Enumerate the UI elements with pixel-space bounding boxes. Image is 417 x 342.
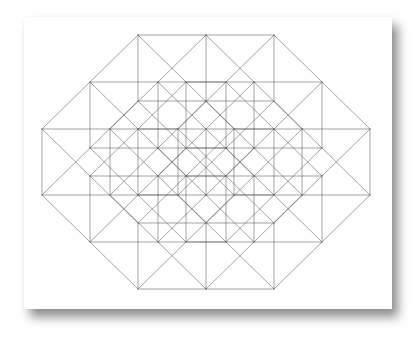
lattice-edge-d1 bbox=[110, 195, 158, 242]
lattice-edge-d2 bbox=[186, 129, 234, 176]
lattice-edge-d1 bbox=[42, 195, 90, 242]
lattice-edge-d1 bbox=[274, 129, 322, 176]
lattice-edge-d1 bbox=[226, 176, 274, 223]
lattice-edge-d2 bbox=[274, 242, 322, 289]
lattice-edge-d2 bbox=[274, 148, 322, 195]
lattice-edge-d2 bbox=[138, 82, 186, 129]
lattice-edge-d1 bbox=[158, 242, 206, 289]
lattice-edge-d1 bbox=[178, 129, 226, 176]
lattice-edge-d1 bbox=[226, 242, 274, 289]
lattice-edge-d2 bbox=[90, 35, 138, 82]
lattice-edge-d2 bbox=[322, 195, 370, 242]
lattice-edge-d1 bbox=[90, 242, 138, 289]
lattice-edge-d2 bbox=[138, 176, 186, 223]
lattice-edge-d1 bbox=[178, 195, 226, 242]
lattice-edge-d1 bbox=[206, 35, 254, 82]
lattice-edge-d2 bbox=[206, 176, 254, 223]
lattice-edge-d2 bbox=[158, 35, 206, 82]
lattice-edge-d1 bbox=[226, 148, 274, 195]
lattice-edge-d1 bbox=[42, 129, 90, 176]
lattice-edge-d2 bbox=[226, 35, 274, 82]
lattice-edge-d1 bbox=[138, 195, 186, 242]
lattice-edge-d2 bbox=[254, 129, 302, 176]
lattice-edge-d2 bbox=[274, 176, 322, 223]
lattice-edge-d1 bbox=[254, 148, 302, 195]
lattice-edge-d2 bbox=[110, 82, 158, 129]
lattice-edge-d1 bbox=[206, 101, 254, 148]
lattice-edge-d2 bbox=[158, 129, 206, 176]
lattice-edge-d2 bbox=[274, 82, 322, 129]
lattice-edge-d2 bbox=[110, 148, 158, 195]
lattice-edge-d2 bbox=[206, 82, 254, 129]
lattice-edge-d2 bbox=[322, 129, 370, 176]
lattice-edge-d1 bbox=[90, 148, 138, 195]
lattice-edge-d2 bbox=[178, 82, 226, 129]
lattice-edge-d1 bbox=[158, 82, 206, 129]
lattice-edge-d2 bbox=[42, 148, 90, 195]
lattice-edge-d1 bbox=[158, 148, 206, 195]
lattice-edge-d1 bbox=[274, 101, 322, 148]
lattice-edge-d2 bbox=[206, 242, 254, 289]
lattice-edge-d2 bbox=[90, 129, 138, 176]
lattice-edge-d1 bbox=[90, 82, 138, 129]
canvas bbox=[0, 0, 417, 342]
lattice-edge-d2 bbox=[90, 195, 138, 242]
lattice-edge-d1 bbox=[206, 195, 254, 242]
geometric-lattice-diagram bbox=[0, 0, 417, 342]
lattice-edge-d1 bbox=[186, 148, 234, 195]
lattice-edge-d1 bbox=[274, 195, 322, 242]
lattice-edge-d2 bbox=[226, 195, 274, 242]
lattice-edge-d1 bbox=[322, 148, 370, 195]
lattice-edge-d2 bbox=[42, 82, 90, 129]
lattice-edge-d2 bbox=[226, 129, 274, 176]
lattice-edge-d1 bbox=[226, 82, 274, 129]
lattice-edge-d2 bbox=[226, 101, 274, 148]
lattice-edge-d1 bbox=[138, 35, 186, 82]
lattice-edge-d1 bbox=[274, 35, 322, 82]
lattice-edge-d1 bbox=[110, 129, 158, 176]
lattice-edge-d1 bbox=[322, 82, 370, 129]
lattice-edge-d2 bbox=[138, 242, 186, 289]
lattice-edge-d1 bbox=[138, 101, 186, 148]
lattice-lines bbox=[42, 35, 370, 289]
lattice-edge-d2 bbox=[158, 195, 206, 242]
lattice-edge-d2 bbox=[178, 148, 226, 195]
